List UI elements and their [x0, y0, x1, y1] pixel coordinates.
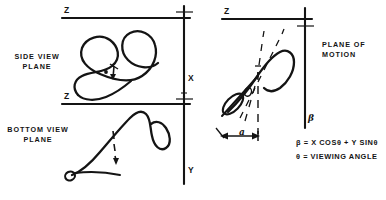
- side-view-trajectory-curve: [75, 31, 158, 95]
- side-view-curve-point: [104, 70, 108, 74]
- plane-of-motion-label: PLANE OF MOTION: [322, 40, 384, 59]
- side-view-plane-label: SIDE VIEW PLANE: [6, 52, 68, 71]
- side-view-plane-label-line2: PLANE: [6, 62, 68, 72]
- motion-trajectory-curve: [228, 51, 294, 112]
- motion-z-axis-label: Z: [224, 6, 230, 17]
- motion-beta-axis-label: β: [308, 112, 314, 124]
- motion-axis-stroke: [222, 76, 258, 116]
- bottom-view-plane-label: BOTTOM VIEW PLANE: [2, 125, 74, 144]
- bottom-view-end-loop: [64, 170, 77, 182]
- motion-alpha-arrow-right-head: [252, 133, 260, 140]
- bottom-view-plane-label-line1: BOTTOM VIEW: [2, 125, 74, 135]
- side-view-x-axis-label: X: [188, 73, 194, 84]
- side-view-z-axis-label: Z: [64, 5, 70, 16]
- motion-theta-glyph: [243, 87, 252, 97]
- side-view-curve-tail: [78, 81, 131, 100]
- bottom-view-panel: [62, 96, 193, 184]
- bottom-view-z-axis-label: Z: [64, 91, 70, 102]
- figure-canvas: SIDE VIEW PLANE BOTTOM VIEW PLANE PLANE …: [0, 0, 386, 200]
- plane-of-motion-panel: [216, 8, 314, 141]
- plane-of-motion-label-line2: MOTION: [322, 50, 384, 60]
- side-view-plane-label-line1: SIDE VIEW: [6, 52, 68, 62]
- motion-alpha-label: a: [239, 126, 246, 138]
- motion-alpha-left-tick: [216, 128, 224, 138]
- theta-definition-equation: θ = VIEWING ANGLE: [296, 152, 377, 161]
- beta-equation: β = X COSθ + Y SINθ: [296, 138, 378, 147]
- side-view-panel: [62, 6, 193, 100]
- bottom-view-baseline-stroke: [75, 172, 120, 175]
- plane-of-motion-label-line1: PLANE OF: [322, 40, 384, 50]
- bottom-view-dashed-arrow-head: [113, 158, 119, 165]
- motion-dashed-steep-line: [245, 31, 264, 121]
- bottom-view-plane-label-line2: PLANE: [2, 135, 74, 145]
- motion-dashed-tilted-line: [240, 29, 284, 118]
- bottom-view-trajectory-curve: [72, 112, 170, 175]
- bottom-view-y-axis-label: Y: [188, 165, 194, 176]
